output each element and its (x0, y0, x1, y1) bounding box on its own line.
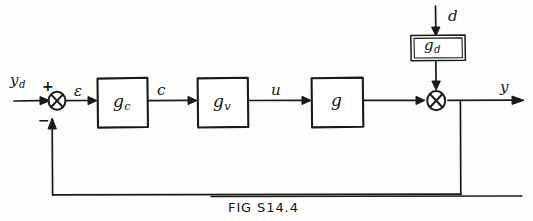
wire-controller-to-valve (147, 96, 197, 104)
wire-disturbance-into-gd (432, 6, 440, 36)
summing-junction-output (427, 91, 445, 110)
caption-rule (211, 196, 522, 197)
diagram-canvas (0, 0, 533, 221)
block-label-disturbance-sub: d (434, 44, 441, 55)
block-label-controller-sub: c (124, 99, 131, 113)
wire-gd-to-output-junction (432, 60, 440, 90)
label-setpoint: yd (10, 73, 25, 90)
block-label-process: g (331, 92, 342, 112)
wire-setpoint-to-error-junction (14, 97, 50, 105)
block-label-disturbance-base: g (424, 36, 434, 54)
block-label-controller-base: g (113, 91, 124, 111)
sign-plus-reference: + (42, 79, 54, 93)
label-setpoint-sub: d (18, 79, 25, 90)
wire-process-to-output-junction (363, 96, 425, 104)
wire-output-to-y (448, 96, 524, 104)
block-label-controller: gc (113, 93, 131, 113)
block-label-valve: gv (213, 93, 231, 113)
summing-junction-error (49, 92, 66, 110)
sign-minus-feedback: − (38, 113, 50, 127)
label-manipulated: u (271, 83, 281, 98)
label-output: y (500, 80, 508, 95)
block-diagram-figure: yd + − ε gc c gv u g d gd y FIG S14.4 (0, 0, 533, 221)
block-label-valve-sub: v (224, 99, 231, 113)
block-label-valve-base: g (213, 91, 224, 111)
block-label-process-base: g (331, 90, 342, 110)
figure-caption: FIG S14.4 (228, 200, 299, 215)
label-error: ε (74, 84, 82, 99)
label-disturbance: d (448, 9, 458, 24)
label-controller-output: c (157, 83, 165, 98)
block-label-disturbance: gd (424, 38, 441, 55)
